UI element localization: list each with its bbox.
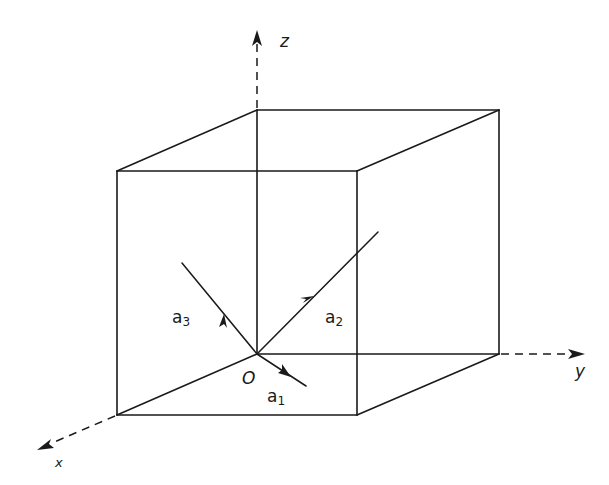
y-axis-label: y [574, 361, 586, 381]
vector-a3 [182, 263, 257, 354]
cube-edge-bottom-left [117, 354, 257, 415]
axes [37, 30, 585, 450]
x-axis-label: x [54, 455, 63, 470]
y-axis-arrowhead-icon [568, 349, 585, 359]
labels: z y x O a1 a2 a3 [54, 31, 586, 470]
origin-label: O [242, 368, 255, 388]
x-axis [52, 416, 115, 443]
vector-a2-label: a2 [325, 307, 343, 329]
vector-a1-label: a1 [267, 386, 285, 408]
z-axis-arrowhead-icon [252, 30, 262, 46]
z-axis-label: z [279, 31, 290, 51]
cube-diagram: z y x O a1 a2 a3 [0, 0, 609, 485]
vector-a1 [257, 354, 306, 386]
cube [117, 110, 499, 415]
vectors [182, 232, 378, 386]
vector-a2 [257, 232, 378, 354]
x-axis-arrowhead-icon [37, 439, 54, 450]
cube-edge-top-right [357, 110, 499, 171]
cube-edge-top-left [117, 110, 257, 171]
vector-a1-arrowhead-icon [278, 364, 291, 377]
vector-a3-label: a3 [172, 307, 190, 329]
cube-edge-bottom-right [357, 354, 499, 415]
